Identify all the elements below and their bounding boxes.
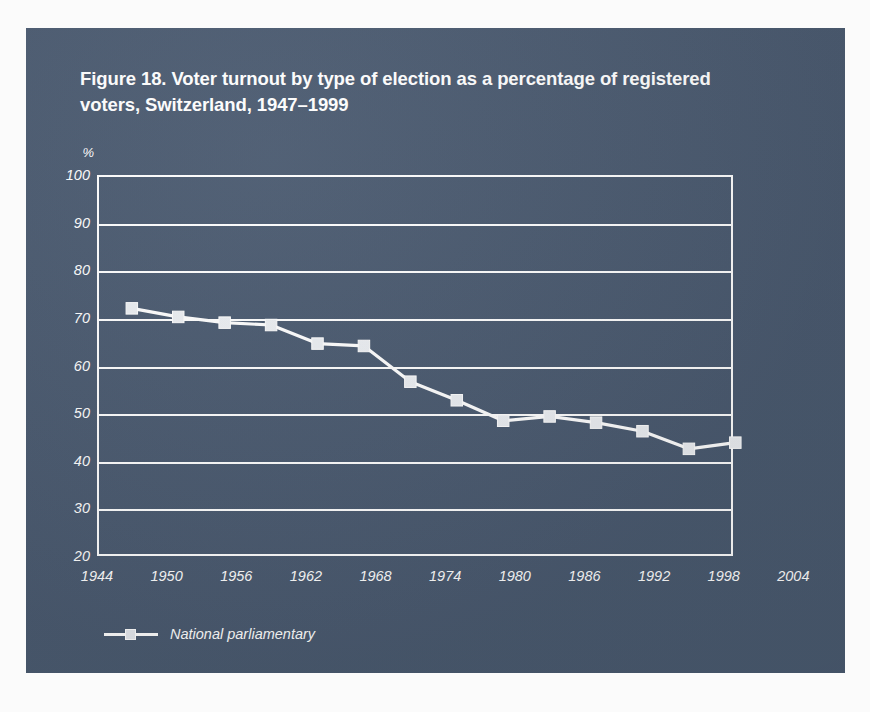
data-point-marker-1987 bbox=[590, 417, 602, 429]
x-tick-label-1986: 1986 bbox=[568, 568, 600, 584]
x-tick-label-1968: 1968 bbox=[359, 568, 391, 584]
data-point-marker-1951 bbox=[172, 311, 184, 323]
x-tick-label-2004: 2004 bbox=[777, 568, 809, 584]
x-tick-label-1980: 1980 bbox=[499, 568, 531, 584]
x-tick-label-1944: 1944 bbox=[81, 568, 113, 584]
data-point-marker-1979 bbox=[497, 415, 509, 427]
data-point-marker-1971 bbox=[405, 376, 417, 388]
data-point-marker-1983 bbox=[544, 411, 556, 423]
data-point-marker-1963 bbox=[312, 338, 324, 350]
legend: National parliamentary bbox=[104, 626, 315, 642]
data-point-marker-1991 bbox=[637, 425, 649, 437]
x-tick-label-1956: 1956 bbox=[220, 568, 252, 584]
x-tick-label-1950: 1950 bbox=[150, 568, 182, 584]
x-tick-label-1992: 1992 bbox=[638, 568, 670, 584]
data-point-marker-1967 bbox=[358, 340, 370, 352]
page-canvas: Figure 18. Voter turnout by type of elec… bbox=[0, 0, 870, 712]
data-point-marker-1955 bbox=[219, 317, 231, 329]
x-tick-label-1998: 1998 bbox=[708, 568, 740, 584]
figure-panel: Figure 18. Voter turnout by type of elec… bbox=[26, 28, 845, 673]
data-point-marker-1975 bbox=[451, 395, 463, 407]
data-point-marker-1999 bbox=[730, 437, 742, 449]
data-point-marker-1959 bbox=[265, 319, 277, 331]
x-tick-label-1974: 1974 bbox=[429, 568, 461, 584]
x-axis-tick-labels: 1944195019561962196819741980198619921998… bbox=[26, 568, 845, 592]
data-point-marker-1995 bbox=[683, 443, 695, 455]
data-point-marker-1947 bbox=[126, 303, 138, 315]
chart-area: % 2030405060708090100 194419501956196219… bbox=[26, 28, 845, 673]
legend-label-national-parliamentary: National parliamentary bbox=[170, 626, 315, 642]
square-marker-icon bbox=[125, 629, 136, 640]
legend-swatch-national-parliamentary bbox=[104, 627, 158, 641]
x-tick-label-1962: 1962 bbox=[290, 568, 322, 584]
